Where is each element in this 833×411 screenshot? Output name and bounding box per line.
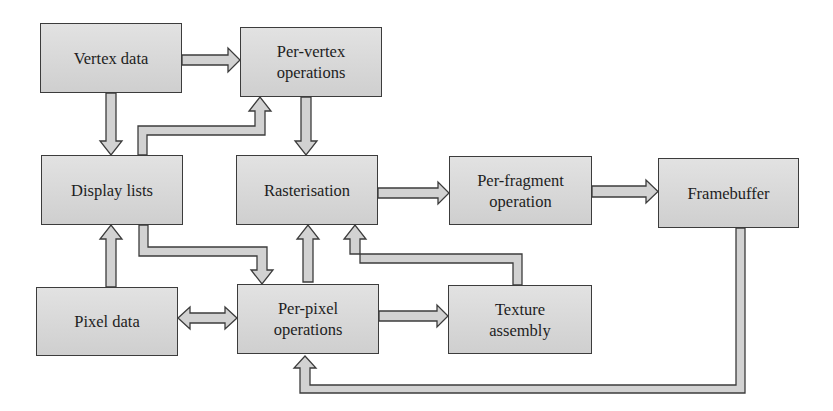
node-rasterisation: Rasterisation <box>236 155 378 225</box>
node-texture-assembly-label: Texture assembly <box>489 299 550 341</box>
node-vertex-data-label: Vertex data <box>74 48 149 69</box>
arrow-perpixel-to-raster <box>297 225 319 282</box>
arrow-perpixel-to-texture <box>379 305 448 327</box>
node-per-pixel-operations-label: Per-pixel operations <box>274 298 343 340</box>
node-vertex-data: Vertex data <box>40 23 182 93</box>
arrow-display-to-pervertex <box>138 97 271 155</box>
node-pixel-data: Pixel data <box>36 287 178 356</box>
node-display-lists: Display lists <box>41 155 183 225</box>
arrow-pervertex-to-raster <box>295 97 317 155</box>
node-per-fragment-operation: Per-fragment operation <box>449 156 592 225</box>
arrow-perfragment-to-framebuffer <box>592 180 658 203</box>
arrow-vertex-to-pervertex <box>182 48 240 72</box>
arrow-texture-to-raster <box>344 225 522 285</box>
node-pixel-data-label: Pixel data <box>74 311 140 332</box>
arrow-vertex-to-display <box>100 93 122 155</box>
arrow-pixel-to-display <box>100 225 122 287</box>
node-per-fragment-operation-label: Per-fragment operation <box>477 170 564 212</box>
node-framebuffer-label: Framebuffer <box>687 183 769 204</box>
node-display-lists-label: Display lists <box>71 180 153 201</box>
node-per-vertex-operations-label: Per-vertex operations <box>277 41 346 83</box>
node-texture-assembly: Texture assembly <box>448 285 592 354</box>
arrow-pixel-perpixel-bidirectional <box>178 307 237 329</box>
node-per-pixel-operations: Per-pixel operations <box>237 284 379 354</box>
node-framebuffer: Framebuffer <box>658 158 799 228</box>
node-rasterisation-label: Rasterisation <box>264 180 350 201</box>
arrow-display-to-perpixel <box>139 225 273 284</box>
node-per-vertex-operations: Per-vertex operations <box>240 27 382 97</box>
arrow-raster-to-perfragment <box>378 182 449 204</box>
